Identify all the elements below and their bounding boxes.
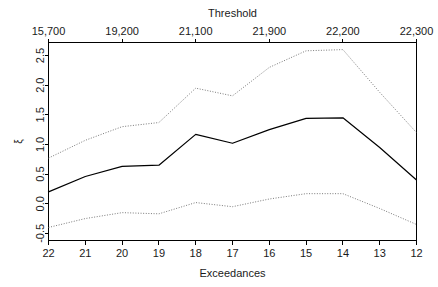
top-tick-label: 21,100 bbox=[179, 25, 213, 37]
x-tick-label: 21 bbox=[79, 247, 91, 259]
chart-canvas: 2221201918171615141312Exceedances15,7001… bbox=[0, 0, 438, 287]
y-tick-label: 2.5 bbox=[35, 48, 47, 63]
x-tick-label: 19 bbox=[153, 247, 165, 259]
y-tick-label: 1.0 bbox=[35, 137, 47, 152]
top-tick-label: 22,200 bbox=[326, 25, 360, 37]
y-tick-label: 1.5 bbox=[35, 107, 47, 122]
x-tick-label: 13 bbox=[374, 247, 386, 259]
x-tick-label: 22 bbox=[42, 247, 54, 259]
y-tick-label: 0.5 bbox=[35, 166, 47, 181]
x-tick-label: 14 bbox=[337, 247, 349, 259]
y-axis-title: ξ bbox=[13, 139, 25, 144]
x-tick-label: 18 bbox=[190, 247, 202, 259]
x-tick-label: 12 bbox=[410, 247, 422, 259]
x-tick-label: 15 bbox=[300, 247, 312, 259]
y-tick-label: -0.5 bbox=[35, 224, 47, 243]
series-line-estimate bbox=[49, 118, 417, 192]
x-tick-label: 17 bbox=[226, 247, 238, 259]
series-line-confidence bbox=[49, 194, 417, 228]
y-tick-label: 0.0 bbox=[35, 196, 47, 211]
top-tick-label: 22,300 bbox=[400, 25, 434, 37]
x-axis-title: Exceedances bbox=[199, 267, 266, 279]
series-line-confidence bbox=[49, 50, 417, 158]
y-tick-label: 2.0 bbox=[35, 78, 47, 93]
top-tick-label: 15,700 bbox=[32, 25, 66, 37]
x-tick-label: 16 bbox=[263, 247, 275, 259]
top-tick-label: 19,200 bbox=[105, 25, 139, 37]
top-axis-title: Threshold bbox=[208, 7, 257, 19]
top-tick-label: 21,900 bbox=[252, 25, 286, 37]
figure-root: 2221201918171615141312Exceedances15,7001… bbox=[0, 0, 438, 287]
plot-frame bbox=[49, 43, 417, 241]
x-tick-label: 20 bbox=[116, 247, 128, 259]
